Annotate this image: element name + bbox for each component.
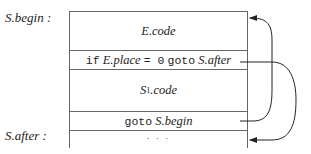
jump-arrows bbox=[0, 0, 311, 154]
arrow-forward-to-after bbox=[240, 62, 296, 140]
arrow-back-to-begin bbox=[240, 18, 272, 121]
